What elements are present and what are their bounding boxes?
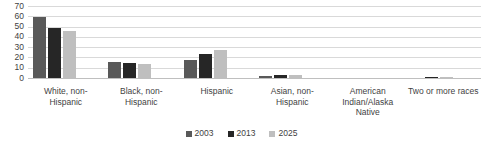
- bar-2003-2[interactable]: [184, 60, 197, 79]
- bar-2013-3[interactable]: [274, 75, 287, 78]
- legend-item-2013[interactable]: 2013: [228, 129, 256, 138]
- y-axis-tick-label: 20: [15, 53, 24, 62]
- legend-item-2003[interactable]: 2003: [186, 129, 214, 138]
- y-axis-tick-label: 30: [15, 43, 24, 52]
- bar-group: [104, 0, 180, 84]
- bar-group: [330, 0, 406, 84]
- bars-container: [28, 6, 104, 78]
- plot-area: [28, 0, 481, 84]
- bars-container: [255, 6, 331, 78]
- legend-swatch-icon: [186, 131, 192, 137]
- y-axis-tick-label: 40: [15, 32, 24, 41]
- bar-group: [179, 0, 255, 84]
- legend-label: 2013: [237, 129, 256, 138]
- legend-label: 2025: [278, 129, 297, 138]
- bars-container: [104, 6, 180, 78]
- bar-2025-0[interactable]: [63, 31, 76, 78]
- bars-container: [406, 6, 482, 78]
- bars-container: [330, 6, 406, 78]
- y-axis: 706050403020100: [0, 0, 26, 84]
- y-axis-tick-label: 10: [15, 63, 24, 72]
- bar-2013-0[interactable]: [48, 28, 61, 78]
- legend-swatch-icon: [228, 131, 234, 137]
- category-axis-labels: White, non-HispanicBlack, non-HispanicHi…: [28, 86, 481, 118]
- bar-2003-1[interactable]: [108, 62, 121, 78]
- bar-group: [255, 0, 331, 84]
- bar-chart: 706050403020100 White, non-HispanicBlack…: [0, 0, 483, 150]
- bar-2013-5[interactable]: [425, 77, 438, 78]
- legend-swatch-icon: [269, 131, 275, 137]
- bar-2025-5[interactable]: [440, 77, 453, 78]
- y-axis-tick-label: 60: [15, 12, 24, 21]
- bar-2025-1[interactable]: [138, 64, 151, 78]
- bar-2025-2[interactable]: [214, 50, 227, 78]
- category-label: Two or more races: [406, 86, 482, 118]
- y-axis-tick-label: 50: [15, 22, 24, 31]
- bar-2025-3[interactable]: [289, 75, 302, 78]
- bar-2003-3[interactable]: [259, 76, 272, 78]
- category-label: White, non-Hispanic: [28, 86, 104, 118]
- legend-item-2025[interactable]: 2025: [269, 129, 297, 138]
- category-label: American Indian/Alaska Native: [330, 86, 406, 118]
- bar-group: [28, 0, 104, 84]
- plot-wrapper: 706050403020100: [0, 0, 483, 84]
- bar-2013-1[interactable]: [123, 63, 136, 78]
- bar-2013-2[interactable]: [199, 54, 212, 78]
- y-axis-tick-label: 0: [19, 74, 24, 83]
- category-label: Asian, non-Hispanic: [255, 86, 331, 118]
- bar-2003-0[interactable]: [33, 17, 46, 78]
- bars-container: [179, 6, 255, 78]
- category-label: Black, non-Hispanic: [104, 86, 180, 118]
- chart-legend: 200320132025: [0, 129, 483, 138]
- legend-label: 2003: [195, 129, 214, 138]
- category-label: Hispanic: [179, 86, 255, 118]
- bar-group: [406, 0, 482, 84]
- y-axis-tick-label: 70: [15, 2, 24, 11]
- bar-groups: [28, 0, 481, 84]
